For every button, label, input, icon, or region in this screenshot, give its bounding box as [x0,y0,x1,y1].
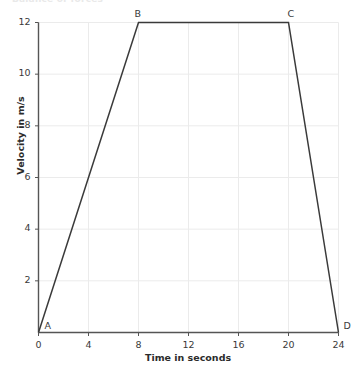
x-tick-label: 24 [324,339,354,350]
x-tick-label: 0 [24,339,54,350]
point-label-c: C [288,8,295,19]
y-tick-label: 2 [3,274,31,285]
axis-ticks [35,23,339,337]
y-tick-label: 10 [3,67,31,78]
velocity-time-chart: Balance of forces Velocity in m/s Time i… [0,0,362,374]
x-tick-label: 20 [274,339,304,350]
x-tick-label: 16 [224,339,254,350]
x-axis-label: Time in seconds [38,352,338,363]
y-tick-label: 8 [3,119,31,130]
y-tick-label: 4 [3,222,31,233]
x-tick-label: 4 [74,339,104,350]
y-tick-label: 6 [3,171,31,182]
y-tick-label: 12 [3,16,31,27]
clipped-title: Balance of forces [12,0,103,4]
x-tick-label: 8 [124,339,154,350]
gridlines [39,23,339,333]
plot-area [0,0,362,374]
point-label-b: B [135,8,142,19]
x-tick-label: 12 [174,339,204,350]
point-label-d: D [344,320,351,331]
point-label-a: A [45,320,52,331]
